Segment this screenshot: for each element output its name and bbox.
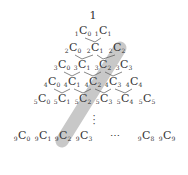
term-9C1: 9C1 bbox=[35, 130, 52, 144]
term-3C1: 3C1 bbox=[74, 59, 91, 73]
term-5C1: 5C1 bbox=[54, 93, 71, 107]
term-1C0: 1C0 bbox=[75, 25, 92, 39]
term-5C3: 5C3 bbox=[96, 93, 113, 107]
term-3C0: 3C0 bbox=[54, 59, 71, 73]
term-5C0: 5C0 bbox=[34, 93, 51, 107]
term-4C0: 4C0 bbox=[44, 76, 61, 90]
apex-one: 1 bbox=[90, 9, 97, 22]
term-5C2: 5C2 bbox=[75, 93, 92, 107]
term-5C5: 5C5 bbox=[139, 93, 156, 107]
term-9C9: 9C9 bbox=[159, 130, 176, 144]
term-3C2: 3C2 bbox=[95, 59, 112, 73]
term-4C3: 4C3 bbox=[105, 76, 122, 90]
term-4C1: 4C1 bbox=[64, 76, 81, 90]
term-9C3: 9C3 bbox=[76, 130, 93, 144]
term-2C2: 2C2 bbox=[109, 42, 126, 56]
term-9C0: 9C0 bbox=[14, 130, 31, 144]
term-4C2: 4C2 bbox=[85, 76, 102, 90]
term-9C8: 9C8 bbox=[138, 130, 155, 144]
term-4C4: 4C4 bbox=[126, 76, 143, 90]
term-1C1: 1C1 bbox=[95, 25, 112, 39]
term-2C1: 2C1 bbox=[87, 42, 104, 56]
term-9C2: 9C2 bbox=[55, 130, 72, 144]
vertical-ellipsis: ··· bbox=[92, 114, 95, 126]
term-5C4: 5C4 bbox=[117, 93, 134, 107]
horizontal-ellipsis: ⋯ bbox=[110, 130, 120, 141]
term-2C0: 2C0 bbox=[65, 42, 82, 56]
term-3C3: 3C3 bbox=[116, 59, 133, 73]
pascal-triangle-diagram: 1 1C01C12C02C12C23C03C13C23C34C04C14C24C… bbox=[0, 0, 188, 175]
